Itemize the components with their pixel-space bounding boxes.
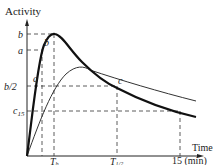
x-label-thalf: T1/2 [110,156,123,165]
x-label-tb: Tb [50,156,59,165]
x-label-15min: 15 (min) [172,155,207,165]
x-axis-title: Time [192,142,213,153]
curve-label-a: a [33,73,38,84]
y-axis-arrow-icon [25,19,29,26]
y-axis-title: Activity [5,5,42,17]
activity-time-chart: Activity Time b a b/2 c15 b a c Tb T1/2 … [0,0,221,165]
curve-label-c: c [118,75,123,86]
thin-curve [27,67,196,156]
chart-canvas: Activity Time b a b/2 c15 b a c Tb T1/2 … [0,0,221,165]
reference-lines [27,34,180,156]
y-label-c15: c15 [13,105,25,118]
y-label-bhalf: b/2 [4,81,17,92]
y-label-a: a [18,45,23,56]
y-label-b: b [18,29,23,40]
curve-label-b: b [44,37,49,48]
